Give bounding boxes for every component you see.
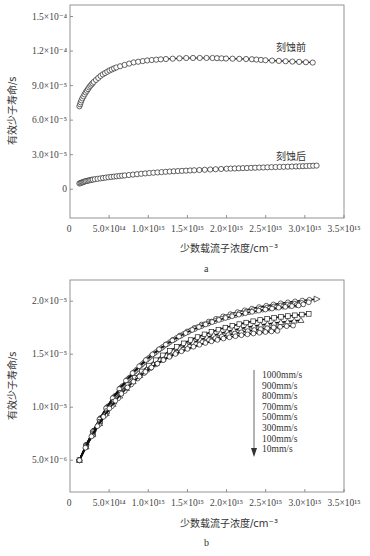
data-point <box>163 342 168 347</box>
y-axis-ticks-a: 03.0×10⁻⁵6.0×10⁻⁵9.0×10⁻⁵1.2×10⁻⁴1.5×10⁻… <box>32 12 73 195</box>
data-point <box>107 406 112 411</box>
data-point <box>89 434 94 439</box>
data-point <box>170 56 175 61</box>
data-point <box>251 331 256 336</box>
legend-entry: 700mm/s <box>262 402 298 412</box>
legend-entry: 10mm/s <box>262 444 293 454</box>
data-point <box>213 167 218 172</box>
x-tick-label: 3.5×10¹⁵ <box>328 224 361 234</box>
x-tick-label: 1.0×10¹⁵ <box>132 224 165 234</box>
data-point <box>221 336 226 341</box>
data-point <box>83 445 88 450</box>
data-point <box>179 349 184 354</box>
data-point <box>227 335 232 340</box>
data-point <box>290 59 295 64</box>
y-tick-label: 2.0×10⁻⁵ <box>32 296 67 306</box>
data-point <box>243 311 248 316</box>
data-point <box>170 338 175 343</box>
data-point <box>192 168 197 173</box>
data-point <box>137 374 142 379</box>
y-tick-label: 1.5×10⁻⁴ <box>32 12 68 22</box>
data-point <box>223 316 228 321</box>
data-point <box>296 303 301 308</box>
panel-b: 5.0×10⁻⁶1.0×10⁻⁵1.5×10⁻⁵2.0×10⁻⁵ 05.0×10… <box>6 280 360 548</box>
data-point <box>190 327 195 332</box>
data-point <box>244 320 249 325</box>
data-point <box>173 352 178 357</box>
data-point <box>130 371 135 376</box>
data-point <box>202 167 207 172</box>
data-point <box>197 342 202 347</box>
data-point <box>279 315 284 320</box>
data-point <box>119 391 124 396</box>
data-point <box>245 332 250 337</box>
data-point <box>236 312 241 317</box>
data-point <box>167 354 172 359</box>
legend-entry: 300mm/s <box>262 423 298 433</box>
data-point <box>314 296 320 302</box>
data-point <box>276 58 281 63</box>
data-point <box>123 378 128 383</box>
data-point <box>263 58 268 63</box>
data-point <box>269 58 274 63</box>
data-point <box>263 330 268 335</box>
y-tick-label: 6.0×10⁻⁵ <box>32 115 67 125</box>
data-point <box>230 314 235 319</box>
data-point <box>301 302 306 307</box>
data-point <box>161 358 166 363</box>
x-tick-label: 1.5×10¹⁵ <box>171 224 204 234</box>
x-tick-label: 3.0×10¹⁵ <box>288 498 321 508</box>
data-point <box>283 59 288 64</box>
data-point <box>209 339 214 344</box>
data-point <box>291 323 296 328</box>
x-tick-label: 1.0×10¹⁵ <box>132 498 165 508</box>
data-point <box>275 328 280 333</box>
data-point <box>293 313 298 318</box>
data-point <box>297 59 302 64</box>
y-axis-title-a: 有效少子寿命/s <box>6 76 18 145</box>
data-point <box>157 347 162 352</box>
data-point <box>306 300 311 305</box>
data-point <box>150 352 155 357</box>
annotation-before-etch: 刻蚀前 <box>276 41 306 53</box>
data-point <box>208 167 213 172</box>
data-point <box>177 56 182 61</box>
data-point <box>210 320 215 325</box>
panel-a: 03.0×10⁻⁵6.0×10⁻⁵9.0×10⁻⁵1.2×10⁻⁴1.5×10⁻… <box>6 5 360 274</box>
data-point <box>191 344 196 349</box>
x-tick-label: 1.5×10¹⁵ <box>171 498 204 508</box>
y-tick-label: 1.5×10⁻⁵ <box>32 349 67 359</box>
x-tick-label: 2.5×10¹⁵ <box>249 224 282 234</box>
data-point <box>197 55 202 60</box>
data-point <box>233 334 238 339</box>
legend-entry: 500mm/s <box>262 412 298 422</box>
panel-label-a: a <box>204 263 209 274</box>
data-point <box>290 304 295 309</box>
data-point <box>230 56 235 61</box>
legend-entry: 800mm/s <box>262 391 298 401</box>
data-point <box>190 55 195 60</box>
x-tick-label: 0 <box>67 498 72 508</box>
x-tick-label: 3.0×10¹⁵ <box>288 224 321 234</box>
data-point <box>184 55 189 60</box>
data-point <box>243 56 248 61</box>
panel-label-b: b <box>204 537 209 548</box>
plot-b-frame <box>70 280 344 492</box>
data-point <box>204 55 209 60</box>
data-point <box>257 330 262 335</box>
data-point <box>284 324 289 329</box>
legend-entry: 900mm/s <box>262 381 298 391</box>
x-tick-label: 5.0×10¹⁴ <box>93 498 127 508</box>
data-point <box>223 56 228 61</box>
data-point <box>306 312 311 317</box>
data-point <box>237 56 242 61</box>
data-point <box>143 358 148 363</box>
y-tick-label: 1.2×10⁻⁴ <box>32 46 68 56</box>
plot-a-data <box>77 55 319 186</box>
figure: 03.0×10⁻⁵6.0×10⁻⁵9.0×10⁻⁵1.2×10⁻⁴1.5×10⁻… <box>0 0 370 556</box>
x-tick-label: 2.5×10¹⁵ <box>249 498 282 508</box>
data-point <box>163 56 168 61</box>
data-point <box>276 305 281 310</box>
data-point <box>270 306 275 311</box>
data-point <box>263 307 268 312</box>
